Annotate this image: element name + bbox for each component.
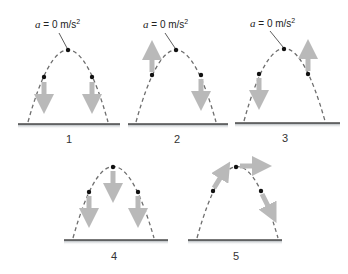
- apex-dot: [66, 48, 70, 52]
- panel-label-4: 4: [111, 250, 117, 262]
- apex-dot: [111, 165, 115, 169]
- annotation-text: = 0 m/s: [41, 19, 77, 30]
- position-dot: [150, 73, 154, 77]
- position-dot: [199, 73, 203, 77]
- position-dot: [90, 75, 94, 79]
- ground-shade: [18, 124, 120, 129]
- acceleration-annotation-3: a = 0 m/s2: [250, 17, 295, 29]
- position-dot: [42, 75, 46, 79]
- position-dot: [306, 72, 310, 76]
- position-dot: [257, 72, 261, 76]
- panel-5: [188, 165, 282, 245]
- acceleration-annotation-1: a = 0 m/s2: [35, 18, 80, 30]
- panel-label-2: 2: [174, 133, 180, 145]
- trajectory-path: [136, 50, 216, 122]
- ground-shade: [128, 124, 228, 129]
- annotation-leader: [59, 33, 67, 48]
- position-dot: [87, 190, 91, 194]
- annotation-leader: [165, 33, 175, 48]
- panel-label-3: 3: [282, 132, 288, 144]
- panel-3: [235, 31, 340, 128]
- arrow-tangent-up-icon: [214, 170, 225, 188]
- acceleration-annotation-2: a = 0 m/s2: [143, 18, 188, 30]
- ground-shade: [188, 240, 282, 245]
- trajectory-path: [244, 49, 325, 122]
- panel-1: [18, 33, 120, 129]
- annotation-exp: 2: [184, 18, 188, 25]
- position-dot: [259, 189, 263, 193]
- annotation-leader: [270, 31, 283, 47]
- apex-dot: [174, 48, 178, 52]
- trajectory-path: [28, 50, 108, 122]
- ground-shade: [64, 240, 168, 245]
- annotation-exp: 2: [76, 18, 80, 25]
- annotation-text: = 0 m/s: [149, 19, 185, 30]
- ground-shade: [235, 123, 340, 128]
- panel-label-5: 5: [233, 250, 239, 262]
- annotation-text: = 0 m/s: [256, 18, 292, 29]
- annotation-exp: 2: [291, 17, 295, 24]
- apex-dot: [234, 165, 238, 169]
- panel-4: [64, 165, 168, 245]
- apex-dot: [282, 47, 286, 51]
- panel-2: [128, 33, 228, 129]
- position-dot: [136, 190, 140, 194]
- arrow-tangent-down-icon: [262, 194, 272, 214]
- position-dot: [211, 189, 215, 193]
- panel-label-1: 1: [66, 133, 72, 145]
